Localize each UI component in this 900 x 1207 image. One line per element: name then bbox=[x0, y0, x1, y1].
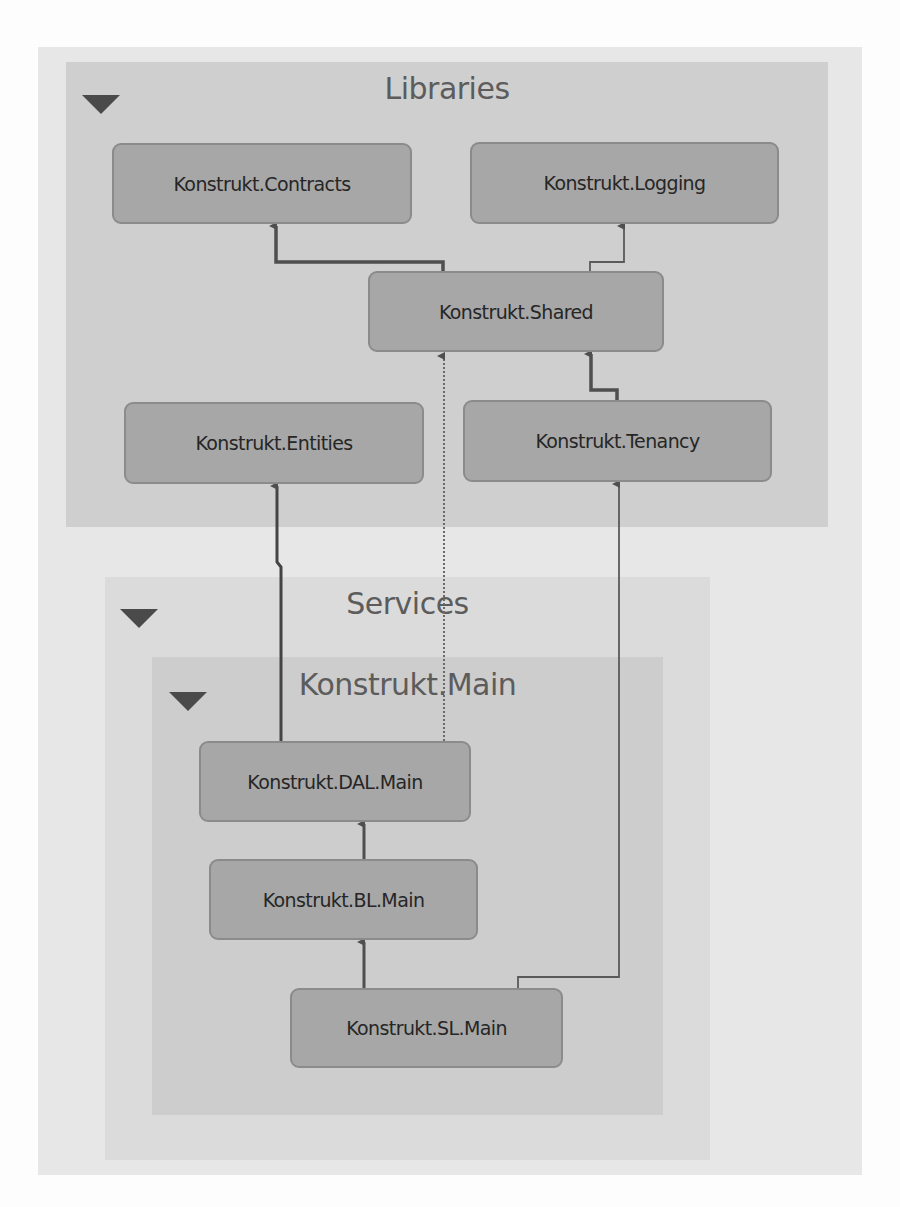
node-label: Konstrukt.SL.Main bbox=[346, 1017, 507, 1039]
node-konstrukt-bl-main[interactable]: Konstrukt.BL.Main bbox=[209, 859, 478, 940]
node-konstrukt-logging[interactable]: Konstrukt.Logging bbox=[470, 142, 779, 224]
group-title-services: Services bbox=[105, 589, 710, 619]
dependency-diagram-canvas: Libraries Services Konstrukt.Main bbox=[0, 0, 900, 1207]
node-label: Konstrukt.BL.Main bbox=[263, 889, 425, 911]
node-konstrukt-entities[interactable]: Konstrukt.Entities bbox=[124, 402, 424, 484]
node-label: Konstrukt.Entities bbox=[195, 432, 352, 454]
node-konstrukt-tenancy[interactable]: Konstrukt.Tenancy bbox=[463, 400, 772, 482]
group-title-libraries: Libraries bbox=[66, 74, 828, 104]
triangle-down-icon[interactable] bbox=[169, 692, 207, 711]
triangle-down-icon[interactable] bbox=[120, 609, 158, 628]
node-konstrukt-dal-main[interactable]: Konstrukt.DAL.Main bbox=[199, 741, 471, 822]
node-label: Konstrukt.Contracts bbox=[173, 173, 350, 195]
triangle-down-icon[interactable] bbox=[82, 95, 120, 114]
group-title-konstrukt-main: Konstrukt.Main bbox=[152, 670, 663, 700]
node-label: Konstrukt.Logging bbox=[543, 172, 705, 194]
node-konstrukt-shared[interactable]: Konstrukt.Shared bbox=[368, 271, 664, 352]
node-konstrukt-contracts[interactable]: Konstrukt.Contracts bbox=[112, 143, 412, 224]
node-label: Konstrukt.Shared bbox=[439, 301, 593, 323]
node-label: Konstrukt.Tenancy bbox=[535, 430, 699, 452]
node-label: Konstrukt.DAL.Main bbox=[247, 771, 422, 793]
node-konstrukt-sl-main[interactable]: Konstrukt.SL.Main bbox=[290, 988, 563, 1068]
